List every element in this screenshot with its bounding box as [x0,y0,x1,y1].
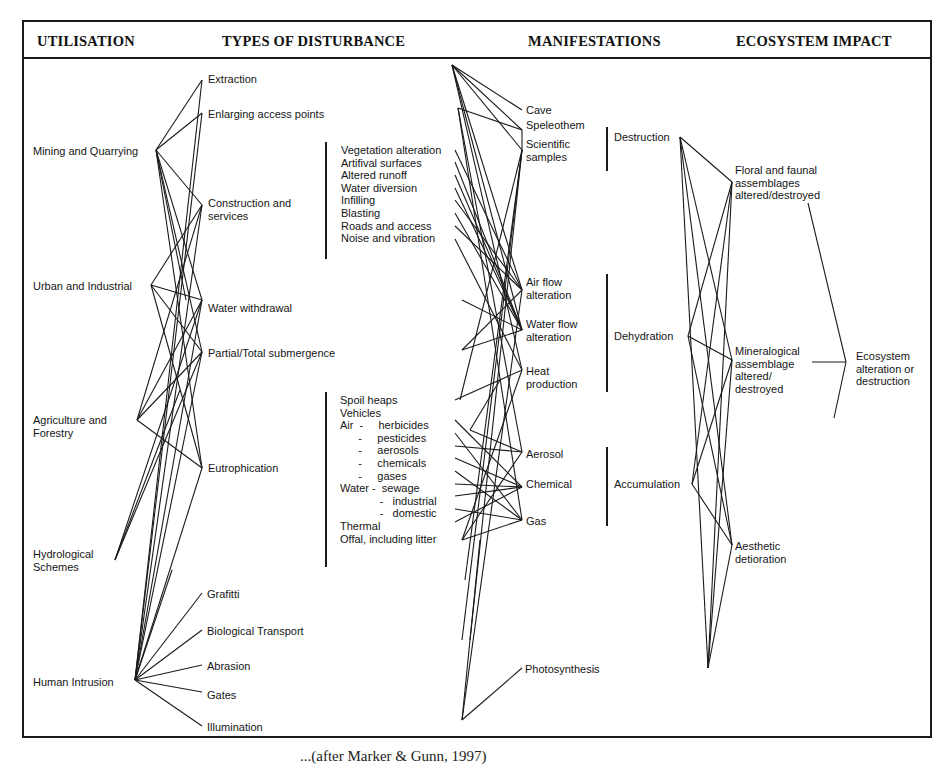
disturbance-biological-transport: Biological Transport [207,625,304,638]
impact-mineralogical: Mineralogical assemblage altered/ destro… [735,345,800,395]
group-dehydration: Dehydration [614,330,673,343]
subitem: Spoil heaps [340,394,437,407]
disturbance-eutrophication: Eutrophication [208,462,278,475]
manifestation-air-flow: Air flow alteration [526,276,571,301]
disturbance-construction: Construction and services [208,197,291,222]
disturbance-enlarging-access: Enlarging access points [208,108,324,121]
final-ecosystem-impact: Ecosystem alteration or destruction [856,350,914,388]
utilisation-agriculture: Agriculture and Forestry [33,414,107,439]
subitem: - pesticides [340,432,437,445]
subitem: Noise and vibration [341,232,441,245]
disturbance-abrasion: Abrasion [207,660,250,673]
subitem: - chemicals [340,457,437,470]
manifestation-gas: Gas [526,515,546,528]
disturbance-illumination: Illumination [207,721,263,734]
manifestation-chemical: Chemical [526,478,572,491]
utilisation-human-intrusion: Human Intrusion [33,676,114,689]
subitem: Water diversion [341,182,441,195]
manifestation-scientific-samples: Scientific samples [526,138,570,163]
construction-subitems-bracket [325,142,327,259]
eutrophication-subitems-list: Spoil heaps Vehicles Air - herbicides - … [340,394,437,545]
group-destruction: Destruction [614,131,670,144]
disturbance-gates: Gates [207,689,236,702]
subitem: - industrial [340,495,437,508]
disturbance-water-withdrawal: Water withdrawal [208,302,292,315]
subitem: - gases [340,470,437,483]
impact-aesthetic: Aesthetic detioration [735,540,786,565]
accumulation-bracket [606,447,608,526]
subitem: Vehicles [340,407,437,420]
subitem: - aerosols [340,444,437,457]
subitem: - domestic [340,507,437,520]
disturbance-extraction: Extraction [208,73,257,86]
subitem: Offal, including litter [340,533,437,546]
subitem: Thermal [340,520,437,533]
manifestation-cave: Cave [526,104,552,117]
group-accumulation: Accumulation [614,478,680,491]
figure-caption: ...(after Marker & Gunn, 1997) [300,748,487,765]
eutrophication-subitems-bracket [325,392,327,567]
utilisation-hydrological: Hydrological Schemes [33,548,94,573]
subitem: Vegetation alteration [341,144,441,157]
subitem: Blasting [341,207,441,220]
subitem: Artifival surfaces [341,157,441,170]
manifestation-water-flow: Water flow alteration [526,318,578,343]
subitem: Roads and access [341,220,441,233]
disturbance-grafitti: Grafitti [207,588,239,601]
subitem: Air - herbicides [340,419,437,432]
utilisation-urban: Urban and Industrial [33,280,132,293]
subitem: Altered runoff [341,169,441,182]
manifestation-heat-production: Heat production [526,365,577,390]
manifestation-speleothem: Speleothem [526,119,585,132]
dehydration-bracket [606,274,608,392]
destruction-bracket [606,127,608,171]
construction-subitems-list: Vegetation alteration Artifival surfaces… [341,144,441,245]
manifestation-photosynthesis: Photosynthesis [525,663,600,676]
manifestation-aerosol: Aerosol [526,448,563,461]
impact-floral-faunal: Floral and faunal assemblages altered/de… [735,164,820,202]
disturbance-submergence: Partial/Total submergence [208,347,335,360]
subitem: Infilling [341,194,441,207]
utilisation-mining: Mining and Quarrying [33,145,138,158]
subitem: Water - sewage [340,482,437,495]
